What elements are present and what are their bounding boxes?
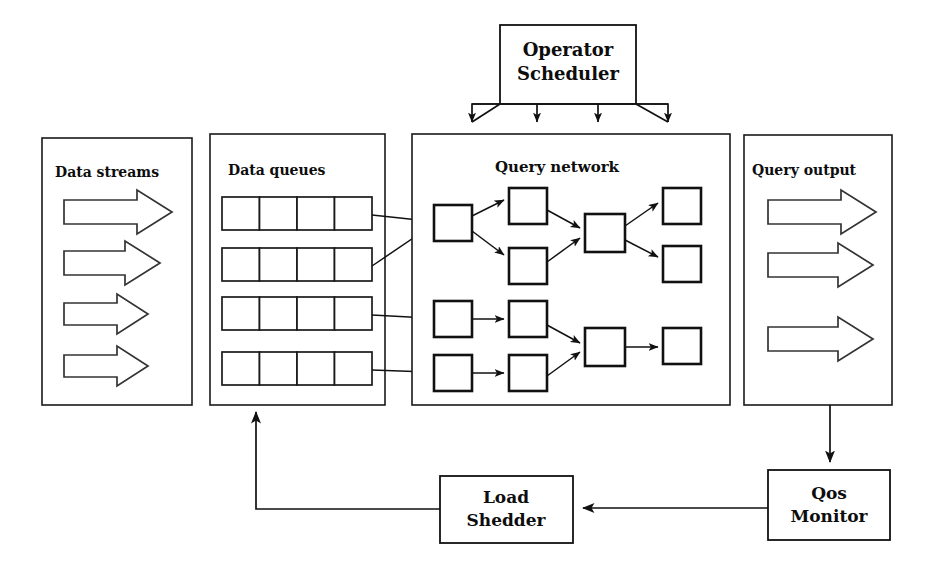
architecture-diagram: Operator Scheduler Data streams bbox=[0, 0, 941, 578]
data-streams-title: Data streams bbox=[55, 164, 159, 180]
queue-row-4 bbox=[222, 352, 372, 385]
operator-node bbox=[434, 355, 472, 391]
edge-load-shedder-to-queues bbox=[256, 412, 440, 509]
operator-node bbox=[663, 328, 701, 364]
operator-node bbox=[434, 301, 472, 337]
load-shedder-node[interactable]: Load Shedder bbox=[440, 476, 573, 543]
panel-data-queues: Data queues bbox=[210, 134, 385, 405]
operator-scheduler-node[interactable]: Operator Scheduler bbox=[500, 25, 636, 104]
operator-node bbox=[509, 355, 547, 391]
panel-data-streams: Data streams bbox=[42, 138, 192, 405]
operator-scheduler-label-line2: Scheduler bbox=[517, 63, 619, 84]
operator-node bbox=[509, 248, 547, 284]
panel-query-output: Query output bbox=[744, 135, 892, 405]
queue-row-3 bbox=[222, 297, 372, 330]
query-output-title: Query output bbox=[752, 162, 857, 178]
operator-scheduler-label-line1: Operator bbox=[523, 39, 614, 60]
qos-monitor-node[interactable]: Qos Monitor bbox=[768, 470, 890, 540]
qos-monitor-label-line2: Monitor bbox=[790, 506, 868, 526]
queue-row-2 bbox=[222, 248, 372, 281]
operator-node bbox=[509, 301, 547, 337]
data-queues-title: Data queues bbox=[228, 162, 326, 178]
panel-query-network: Query network bbox=[412, 134, 730, 405]
operator-node bbox=[663, 246, 701, 282]
qos-monitor-label-line1: Qos bbox=[811, 483, 847, 503]
qos-monitor-box bbox=[768, 470, 890, 540]
operator-node bbox=[509, 188, 547, 224]
load-shedder-label-line2: Shedder bbox=[467, 510, 547, 530]
operator-node bbox=[663, 188, 701, 224]
diagram-canvas: Operator Scheduler Data streams bbox=[0, 0, 941, 578]
operator-node bbox=[585, 214, 625, 252]
operator-node bbox=[434, 205, 472, 241]
scheduler-control-arrows bbox=[472, 104, 668, 122]
load-shedder-label-line1: Load bbox=[483, 487, 529, 507]
operator-node bbox=[585, 328, 625, 366]
query-network-title: Query network bbox=[495, 158, 620, 176]
queue-row-1 bbox=[222, 197, 372, 230]
